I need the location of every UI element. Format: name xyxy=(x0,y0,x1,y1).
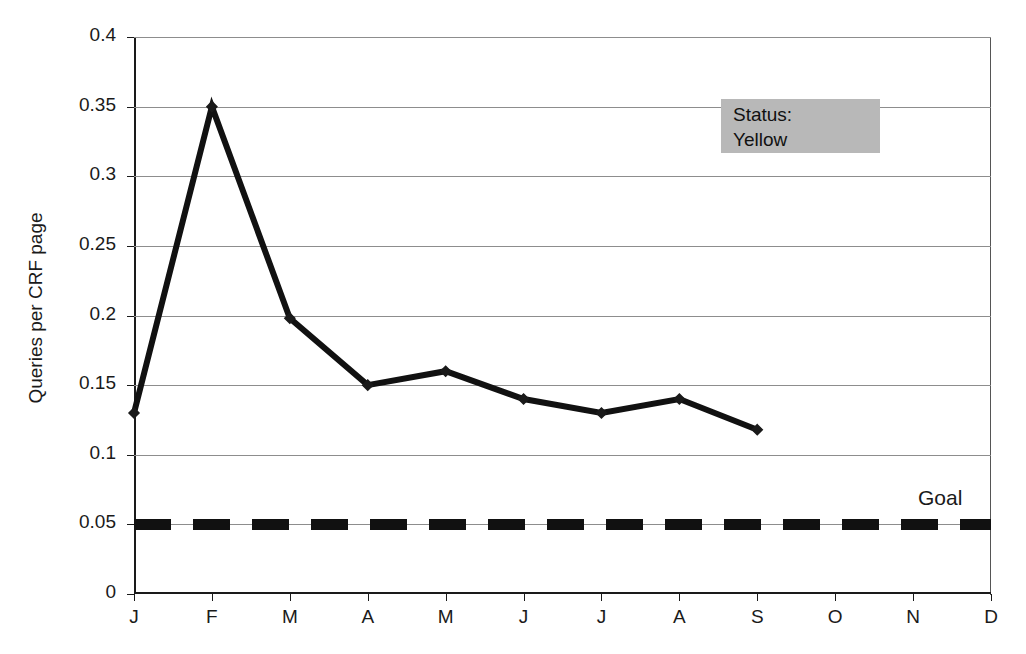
x-tick-label: A xyxy=(348,606,388,628)
y-tick-mark xyxy=(127,455,134,456)
gridline xyxy=(134,316,991,317)
x-tick-mark xyxy=(913,594,914,601)
y-tick-label: 0.2 xyxy=(0,303,116,325)
x-tick-label: J xyxy=(581,606,621,628)
y-tick-label: 0.3 xyxy=(0,163,116,185)
x-tick-mark xyxy=(212,594,213,601)
y-tick-label: 0.1 xyxy=(0,442,116,464)
y-tick-label: 0.25 xyxy=(0,233,116,255)
status-badge: Status: Yellow xyxy=(721,99,880,153)
x-tick-label: J xyxy=(114,606,154,628)
x-tick-label: O xyxy=(815,606,855,628)
x-tick-label: N xyxy=(893,606,933,628)
x-tick-label: F xyxy=(192,606,232,628)
x-tick-label: D xyxy=(971,606,1011,628)
gridline xyxy=(134,37,991,38)
gridline xyxy=(134,176,991,177)
y-tick-mark xyxy=(127,176,134,177)
y-tick-mark xyxy=(127,385,134,386)
x-tick-label: A xyxy=(659,606,699,628)
y-tick-mark xyxy=(127,37,134,38)
x-tick-mark xyxy=(524,594,525,601)
x-tick-label: S xyxy=(737,606,777,628)
y-tick-mark xyxy=(127,524,134,525)
x-tick-mark xyxy=(290,594,291,601)
status-label-line2: Yellow xyxy=(733,127,880,152)
x-tick-mark xyxy=(601,594,602,601)
y-tick-mark xyxy=(127,246,134,247)
y-tick-label: 0.35 xyxy=(0,94,116,116)
chart-container: Queries per CRF page Queries per CRF pag… xyxy=(0,0,1026,654)
gridline xyxy=(134,385,991,386)
y-tick-mark xyxy=(127,316,134,317)
x-tick-label: J xyxy=(504,606,544,628)
x-tick-mark xyxy=(679,594,680,601)
x-tick-mark xyxy=(446,594,447,601)
status-label-line1: Status: xyxy=(733,102,880,127)
gridline xyxy=(134,524,991,525)
x-tick-mark xyxy=(991,594,992,601)
x-tick-label: M xyxy=(426,606,466,628)
x-tick-mark xyxy=(757,594,758,601)
y-tick-label: 0.05 xyxy=(0,511,116,533)
x-tick-label: M xyxy=(270,606,310,628)
y-tick-mark xyxy=(127,107,134,108)
gridline xyxy=(134,455,991,456)
goal-label: Goal xyxy=(918,486,962,510)
y-tick-mark xyxy=(127,594,134,595)
x-tick-mark xyxy=(134,594,135,601)
y-tick-label: 0.15 xyxy=(0,372,116,394)
x-tick-mark xyxy=(835,594,836,601)
gridline xyxy=(134,246,991,247)
x-tick-mark xyxy=(368,594,369,601)
y-tick-label: 0.4 xyxy=(0,24,116,46)
y-tick-label: 0 xyxy=(0,581,116,603)
